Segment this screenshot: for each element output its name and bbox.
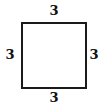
side-label-right: 3: [87, 48, 100, 61]
square-shape: [21, 22, 87, 89]
side-label-left: 3: [3, 48, 17, 61]
side-label-top: 3: [47, 4, 61, 17]
side-label-bottom: 3: [47, 91, 61, 104]
